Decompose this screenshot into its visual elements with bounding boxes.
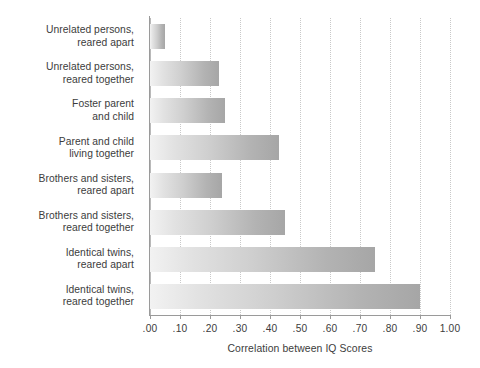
plot-area: [150, 18, 450, 315]
category-label-line: reared together: [63, 296, 134, 308]
bar-row: [150, 167, 450, 204]
x-axis-tick-label: .10: [173, 322, 188, 335]
x-axis-tick-label: 1.00: [440, 322, 461, 335]
category-label: Brothers and sisters,reared apart: [0, 167, 143, 204]
category-label-line: reared apart: [77, 37, 134, 49]
category-label-line: reared apart: [77, 185, 134, 197]
x-axis-tick-label: .70: [353, 322, 368, 335]
category-label-line: reared apart: [77, 259, 134, 271]
x-axis-tick: [450, 315, 451, 319]
category-label: Foster parentand child: [0, 92, 143, 129]
x-axis-tick: [150, 315, 151, 319]
category-label: Identical twins,reared apart: [0, 241, 143, 278]
x-axis-tick: [300, 315, 301, 319]
bar: [150, 247, 375, 272]
category-label: Brothers and sisters,reared together: [0, 204, 143, 241]
category-label-line: and child: [92, 111, 134, 123]
x-axis-tick: [210, 315, 211, 319]
category-label-line: reared together: [63, 222, 134, 234]
x-axis-tick-label: .40: [263, 322, 278, 335]
category-label-line: Parent and child: [59, 136, 134, 148]
bar: [150, 135, 279, 160]
bar-row: [150, 55, 450, 92]
category-label-line: Identical twins,: [66, 284, 134, 296]
bar-row: [150, 204, 450, 241]
x-axis-tick: [270, 315, 271, 319]
x-axis-tick: [390, 315, 391, 319]
category-label: Unrelated persons,reared together: [0, 55, 143, 92]
category-label: Identical twins,reared together: [0, 278, 143, 315]
bar: [150, 61, 219, 86]
x-axis-tick-label: .00: [143, 322, 158, 335]
bar: [150, 24, 165, 49]
bar: [150, 284, 420, 309]
bar: [150, 173, 222, 198]
category-axis-labels: Unrelated persons,reared apartUnrelated …: [0, 18, 143, 315]
bar-row: [150, 92, 450, 129]
category-label-line: Unrelated persons,: [46, 24, 134, 36]
chart-figure: Unrelated persons,reared apartUnrelated …: [0, 0, 480, 368]
gridline: [450, 18, 452, 315]
category-label-line: Foster parent: [72, 98, 134, 110]
category-label-line: Unrelated persons,: [46, 61, 134, 73]
category-label-line: living together: [69, 148, 134, 160]
category-label-line: Brothers and sisters,: [39, 210, 134, 222]
category-label-line: Brothers and sisters,: [39, 173, 134, 185]
x-axis-tick: [180, 315, 181, 319]
x-axis-tick-label: .80: [383, 322, 398, 335]
bar: [150, 210, 285, 235]
x-axis-tick-label: .90: [413, 322, 428, 335]
bar-row: [150, 18, 450, 55]
category-label-line: Identical twins,: [66, 247, 134, 259]
x-axis-tick-label: .30: [233, 322, 248, 335]
category-label: Parent and childliving together: [0, 129, 143, 166]
bar-row: [150, 129, 450, 166]
bar-row: [150, 241, 450, 278]
bar: [150, 98, 225, 123]
x-axis-tick-labels: .00.10.20.30.40.50.60.70.80.901.00: [150, 322, 450, 336]
x-axis-tick-label: .20: [203, 322, 218, 335]
x-axis-title: Correlation between IQ Scores: [150, 343, 450, 354]
bar-series: [150, 18, 450, 315]
x-axis-tick: [360, 315, 361, 319]
category-label-line: reared together: [63, 74, 134, 86]
x-axis-tick-label: .60: [323, 322, 338, 335]
category-label: Unrelated persons,reared apart: [0, 18, 143, 55]
bar-row: [150, 278, 450, 315]
x-axis-tick: [330, 315, 331, 319]
x-axis-tick: [420, 315, 421, 319]
x-axis-tick-label: .50: [293, 322, 308, 335]
x-axis-tick: [240, 315, 241, 319]
